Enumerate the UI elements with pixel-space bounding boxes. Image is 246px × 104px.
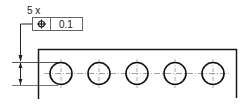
count-label: 5 x	[27, 5, 40, 16]
leader-line	[19, 24, 33, 62]
plate-outline	[39, 50, 237, 100]
feature-control-frame: 0.1	[33, 18, 83, 31]
tolerance-value: 0.1	[59, 19, 73, 30]
dimension-arrows	[19, 62, 23, 85]
technical-drawing: 5 x 0.1	[0, 0, 246, 104]
